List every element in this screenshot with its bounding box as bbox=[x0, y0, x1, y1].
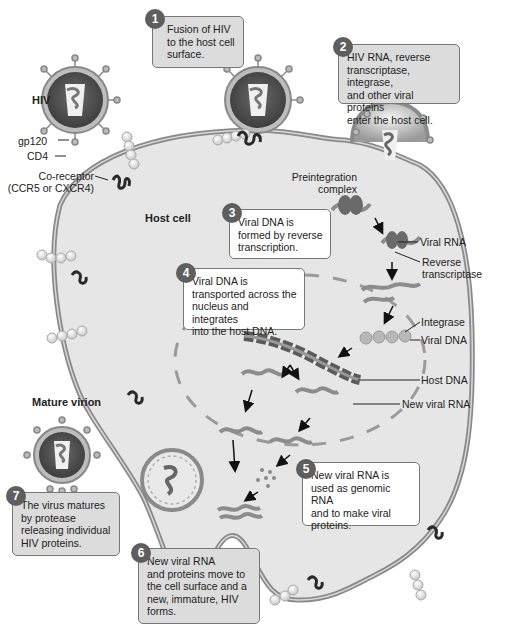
new-viral-rna-label: New viral RNA bbox=[402, 398, 470, 410]
preintegration-complex-label: Preintegration complex bbox=[282, 171, 357, 195]
step-5-box: New viral RNA is used as genomic RNA and… bbox=[302, 462, 420, 526]
mature-virion bbox=[24, 417, 100, 494]
step-4-badge: 4 bbox=[176, 263, 196, 283]
step-3-box: Viral DNA is formed by reverse transcrip… bbox=[229, 209, 331, 259]
step-6-badge: 6 bbox=[131, 543, 151, 563]
coreceptor-label: Co-receptor (CCR5 or CXCR4) bbox=[6, 170, 94, 194]
step-4-box: Viral DNA is transported across the nucl… bbox=[183, 268, 305, 330]
step-1-badge: 1 bbox=[145, 9, 165, 29]
hiv-lifecycle-diagram: HIV gp120 CD4 Co-receptor (CCR5 or CXCR4… bbox=[0, 0, 505, 626]
step-5-badge: 5 bbox=[296, 459, 316, 479]
step-7-box: The virus matures by protease releasing … bbox=[12, 492, 120, 556]
mature-virion-label: Mature virion bbox=[32, 396, 101, 408]
host-dna-label: Host DNA bbox=[421, 374, 468, 386]
step-7-badge: 7 bbox=[6, 486, 26, 506]
immature-budding-virion bbox=[142, 450, 202, 510]
host-cell-label: Host cell bbox=[145, 212, 191, 224]
reverse-transcriptase-label: Reverse transcriptase bbox=[422, 256, 482, 280]
cd4-label: CD4 bbox=[27, 150, 48, 162]
step-1-box: Fusion of HIV to the host cell surface. bbox=[152, 16, 244, 68]
viral-rna-label: Viral RNA bbox=[420, 236, 466, 248]
step-6-box: New viral RNA and proteins move to the c… bbox=[138, 548, 260, 624]
step-3-badge: 3 bbox=[222, 203, 242, 223]
hiv-virion bbox=[41, 55, 120, 145]
integrase-label: Integrase bbox=[421, 316, 465, 328]
step-2-badge: 2 bbox=[333, 37, 353, 57]
hiv-label: HIV bbox=[32, 94, 50, 106]
step-2-box: HIV RNA, reverse transcriptase, integras… bbox=[338, 44, 460, 104]
viral-dna-label: Viral DNA bbox=[421, 334, 467, 346]
gp120-label: gp120 bbox=[18, 135, 47, 147]
